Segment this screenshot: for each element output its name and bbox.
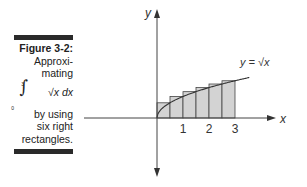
rectangles xyxy=(157,81,235,118)
y-axis-arrow-bottom-icon xyxy=(154,168,160,177)
caption-line: Approxi- xyxy=(1,55,73,68)
riemann-rectangle xyxy=(157,103,170,118)
riemann-rectangle xyxy=(222,81,235,118)
x-tick-labels: 123 xyxy=(180,122,239,136)
x-tick-label: 2 xyxy=(206,122,213,136)
integral-expression: 3 ∫ 0 √x dx xyxy=(1,80,73,108)
riemann-sum-chart: x y y = √x 123 xyxy=(74,0,307,187)
integral-lower-limit: 0 xyxy=(11,102,14,115)
caption-bottom-rule xyxy=(14,149,73,154)
y-axis-label: y xyxy=(144,6,152,20)
caption-text: Figure 3-2: Approxi- mating 3 ∫ 0 √x dx … xyxy=(1,42,73,145)
caption-line: mating xyxy=(1,67,73,80)
x-tick-label: 3 xyxy=(232,122,239,136)
caption-line: six right xyxy=(1,120,73,133)
caption-top-rule xyxy=(14,35,73,40)
riemann-rectangle xyxy=(196,88,209,118)
y-axis-arrow-top-icon xyxy=(154,9,160,18)
x-axis-arrow-icon xyxy=(267,115,276,121)
curve-label: y = √x xyxy=(239,56,270,68)
figure-caption: Figure 3-2: Approxi- mating 3 ∫ 0 √x dx … xyxy=(0,0,74,187)
figure-label: Figure 3-2: xyxy=(1,42,73,55)
x-tick-label: 1 xyxy=(180,122,187,136)
x-axis-label: x xyxy=(279,112,287,126)
riemann-rectangle xyxy=(209,84,222,118)
integrand: √x dx xyxy=(48,86,73,99)
caption-line: rectangles. xyxy=(1,133,73,146)
integral-sign: ∫ xyxy=(20,81,28,94)
